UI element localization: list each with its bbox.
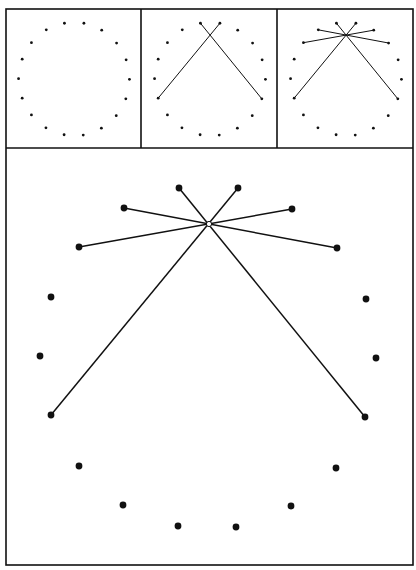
circle-point — [335, 133, 338, 136]
circle-point — [233, 524, 240, 531]
circle-point — [236, 29, 239, 32]
circle-point — [166, 41, 169, 44]
circle-point — [293, 58, 296, 61]
connecting-line — [200, 23, 261, 99]
thumbnail-step-1 — [17, 22, 131, 137]
circle-point — [63, 22, 66, 25]
circle-point — [219, 22, 222, 25]
circle-point — [157, 58, 160, 61]
circle-point — [396, 97, 399, 100]
circle-point — [251, 114, 254, 117]
circle-point — [76, 244, 83, 251]
circle-point — [76, 463, 83, 470]
connecting-line — [158, 23, 220, 98]
outer-border — [6, 9, 413, 565]
circle-point — [30, 114, 33, 117]
circle-point — [45, 28, 48, 31]
circle-point — [317, 28, 320, 31]
panel-frame — [6, 9, 413, 565]
circle-point — [251, 42, 254, 45]
circle-point — [199, 22, 202, 25]
connecting-line — [79, 209, 292, 247]
circle-point — [372, 29, 375, 32]
circle-point — [176, 185, 183, 192]
circle-point — [175, 523, 182, 530]
circle-point — [21, 58, 24, 61]
circle-point — [302, 41, 305, 44]
circle-point — [334, 245, 341, 252]
circle-point — [199, 133, 202, 136]
crossing-point — [206, 221, 211, 226]
circle-point — [235, 185, 242, 192]
circle-point — [83, 22, 86, 25]
circle-point — [288, 503, 295, 510]
circle-point — [236, 127, 239, 130]
circle-point — [260, 97, 263, 100]
circle-point — [17, 77, 20, 80]
connecting-line — [318, 30, 388, 43]
circle-point — [115, 42, 118, 45]
circle-point — [115, 114, 118, 117]
circle-point — [302, 114, 305, 117]
circle-point — [120, 502, 127, 509]
circle-point — [181, 126, 184, 129]
circle-point — [153, 77, 156, 80]
circle-point — [354, 134, 357, 137]
circle-point — [48, 294, 55, 301]
diagram-figure — [0, 0, 416, 570]
circle-point — [82, 134, 85, 137]
circle-point — [157, 97, 160, 100]
circle-point — [363, 296, 370, 303]
connecting-line — [294, 23, 356, 98]
main-panel — [37, 185, 380, 531]
circle-point — [333, 465, 340, 472]
circle-point — [289, 77, 292, 80]
circle-point — [317, 126, 320, 129]
circle-point — [45, 126, 48, 129]
circle-point — [124, 97, 127, 100]
thumbnail-step-2 — [153, 22, 267, 137]
circle-point — [289, 206, 296, 213]
circle-point — [100, 127, 103, 130]
circle-point — [362, 414, 369, 421]
thumbnail-step-3 — [289, 22, 403, 137]
circle-point — [181, 28, 184, 31]
circle-point — [218, 134, 221, 137]
circle-point — [387, 42, 390, 45]
circle-point — [100, 29, 103, 32]
circle-point — [125, 58, 128, 61]
circle-point — [30, 41, 33, 44]
diagram-canvas — [0, 0, 416, 570]
circle-point — [397, 58, 400, 61]
circle-point — [400, 78, 403, 81]
circle-point — [48, 412, 55, 419]
circle-point — [293, 97, 296, 100]
circle-point — [128, 78, 131, 81]
circle-point — [264, 78, 267, 81]
circle-point — [63, 133, 66, 136]
thumbnail-panels — [17, 22, 403, 137]
circle-point — [21, 97, 24, 100]
circle-point — [373, 355, 380, 362]
circle-point — [166, 114, 169, 117]
circle-point — [355, 22, 358, 25]
circle-point — [37, 353, 44, 360]
circle-point — [335, 22, 338, 25]
connecting-line — [124, 208, 337, 248]
circle-point — [261, 58, 264, 61]
connecting-line — [303, 30, 373, 43]
circle-point — [121, 205, 128, 212]
circle-point — [372, 127, 375, 130]
circle-point — [387, 114, 390, 117]
